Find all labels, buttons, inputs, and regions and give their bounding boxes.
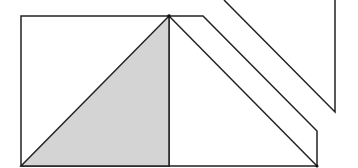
diagram-canvas	[0, 0, 358, 168]
geometry-figure	[0, 0, 358, 168]
bottom-right-vertex	[316, 165, 319, 168]
detached-piece	[224, 0, 335, 112]
apex-vertex	[167, 14, 171, 18]
strip-inner-diagonal	[169, 16, 317, 166]
